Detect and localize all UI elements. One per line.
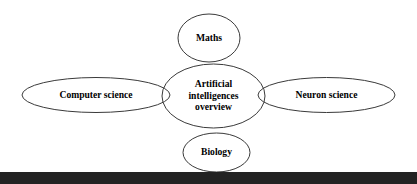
node-center-label-line-3: overview: [195, 101, 232, 112]
node-maths-label: Maths: [196, 32, 222, 43]
node-biology[interactable]: Biology: [183, 133, 250, 172]
node-neuron-science-label: Neuron science: [296, 89, 359, 100]
node-center-label-line-2: intelligences: [188, 90, 238, 101]
bottom-bar: [0, 172, 417, 184]
node-center-ai-overview[interactable]: Artificial intelligences overview: [162, 64, 265, 128]
node-center-label-line-1: Artificial: [195, 78, 233, 89]
node-maths[interactable]: Maths: [178, 14, 240, 62]
node-biology-label: Biology: [201, 146, 232, 157]
node-computer-science-label: Computer science: [59, 89, 133, 100]
node-computer-science[interactable]: Computer science: [22, 78, 170, 113]
node-neuron-science[interactable]: Neuron science: [258, 78, 395, 113]
diagram-canvas: Computer science Neuron science Maths Bi…: [0, 0, 417, 184]
artificial-intelligence-overview-diagram: Computer science Neuron science Maths Bi…: [0, 0, 417, 184]
